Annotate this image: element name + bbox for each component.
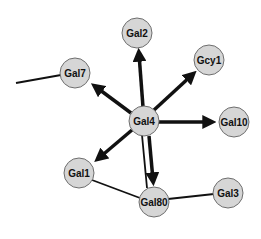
edge-gal4-gal80-undirected (142, 135, 147, 188)
svg-text:Gal7: Gal7 (64, 68, 86, 79)
edge-gal80-gal3 (168, 194, 214, 199)
svg-text:Gal4: Gal4 (133, 116, 155, 127)
svg-text:Gal1: Gal1 (68, 168, 90, 179)
edge-gal7-external (16, 75, 61, 83)
node-gcy1: Gcy1 (194, 45, 224, 75)
svg-text:Gal2: Gal2 (126, 28, 148, 39)
edge-gal4-gal7 (96, 87, 131, 113)
node-gal4: Gal4 (129, 106, 159, 136)
edge-gal4-gal2 (139, 54, 143, 107)
network-diagram: Gal4 Gal2 Gcy1 Gal7 Gal10 Gal1 Gal80 Gal… (0, 0, 261, 239)
node-gal1: Gal1 (64, 158, 94, 188)
node-gal3: Gal3 (213, 178, 243, 208)
svg-text:Gal3: Gal3 (217, 188, 239, 199)
svg-text:Gal80: Gal80 (140, 197, 168, 208)
edge-gal4-gal80 (149, 136, 153, 180)
node-gal80: Gal80 (139, 187, 169, 217)
edge-gal1-gal80 (92, 180, 140, 198)
node-gal10: Gal10 (219, 107, 249, 137)
edge-gal4-gal1 (99, 130, 132, 158)
edge-gal4-gcy1 (154, 75, 192, 110)
node-gal7: Gal7 (60, 58, 90, 88)
node-gal2: Gal2 (122, 18, 152, 48)
svg-text:Gcy1: Gcy1 (197, 55, 222, 66)
svg-text:Gal10: Gal10 (220, 117, 248, 128)
